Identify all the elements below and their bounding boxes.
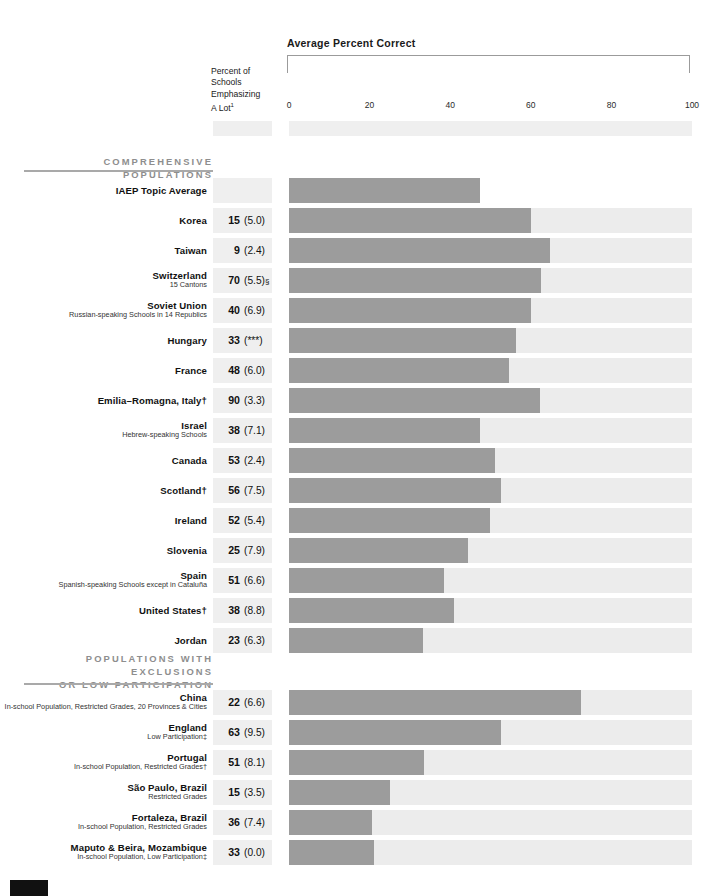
row-bar-track: [289, 268, 692, 293]
x-axis-tick: 0: [287, 100, 292, 110]
row-standard-error: (9.5): [240, 720, 265, 745]
chart-row[interactable]: Fortaleza, BrazilIn-school Population, R…: [0, 810, 715, 840]
row-percent-cell: 15(3.5): [213, 780, 272, 805]
chart-row[interactable]: France48(6.0): [0, 358, 715, 388]
row-bar-track: [289, 478, 692, 503]
chart-row[interactable]: Ireland52(5.4): [0, 508, 715, 538]
row-label: Canada: [0, 455, 207, 466]
chart-row[interactable]: Scotland†56(7.5): [0, 478, 715, 508]
row-label-name: Korea: [0, 215, 207, 226]
row-bar: [289, 208, 531, 233]
row-bar: [289, 750, 424, 775]
row-percent-cell: [213, 178, 272, 203]
row-bar-track: [289, 298, 692, 323]
chart-row[interactable]: Soviet UnionRussian-speaking Schools in …: [0, 298, 715, 328]
row-label-name: Hungary: [0, 335, 207, 346]
row-percent-cell: 36(7.4): [213, 810, 272, 835]
section-rule: [24, 683, 213, 685]
axis-bracket: [287, 55, 690, 73]
row-percent-value: 53: [215, 448, 240, 473]
chart-row[interactable]: Taiwan9(2.4): [0, 238, 715, 268]
section-title: POPULATIONS WITH EXCLUSIONSOR LOW PARTIC…: [20, 652, 213, 691]
section-title-line: COMPREHENSIVE POPULATIONS: [103, 156, 213, 180]
row-label: São Paulo, BrazilRestricted Grades: [0, 782, 207, 802]
row-label: Ireland: [0, 515, 207, 526]
row-standard-error: (5.0): [240, 208, 265, 233]
row-percent-value: 51: [215, 750, 240, 775]
row-percent-value: 36: [215, 810, 240, 835]
row-label: Hungary: [0, 335, 207, 346]
x-axis-tick: 80: [607, 100, 616, 110]
row-label: Korea: [0, 215, 207, 226]
x-axis-tick: 60: [526, 100, 535, 110]
chart-row[interactable]: SpainSpanish-speaking Schools except in …: [0, 568, 715, 598]
row-percent-value: 15: [215, 780, 240, 805]
row-label: SpainSpanish-speaking Schools except in …: [0, 570, 207, 590]
chart-row[interactable]: IAEP Topic Average: [0, 178, 715, 208]
row-standard-error: (5.5)§: [240, 268, 269, 294]
row-bar: [289, 298, 531, 323]
x-axis-tick: 40: [445, 100, 454, 110]
chart-row[interactable]: ChinaIn-school Population, Restricted Gr…: [0, 690, 715, 720]
row-bar: [289, 478, 501, 503]
chart-row[interactable]: United States†38(8.8): [0, 598, 715, 628]
chart-row[interactable]: Emilia–Romagna, Italy†90(3.3): [0, 388, 715, 418]
row-percent-value: 33: [215, 328, 240, 353]
row-percent-cell: 9(2.4): [213, 238, 272, 263]
row-label: France: [0, 365, 207, 376]
row-label: PortugalIn-school Population, Restricted…: [0, 752, 207, 772]
x-axis: 020406080100: [213, 100, 703, 114]
row-label: Scotland†: [0, 485, 207, 496]
row-label-name: Jordan: [0, 635, 207, 646]
row-standard-error: (3.5): [240, 780, 265, 805]
row-standard-error: (2.4): [240, 448, 265, 473]
chart-row[interactable]: Switzerland15 Cantons70(5.5)§: [0, 268, 715, 298]
row-label: IAEP Topic Average: [0, 185, 207, 196]
row-label-name: Slovenia: [0, 545, 207, 556]
row-standard-error: (3.3): [240, 388, 265, 413]
row-bar-track: [289, 628, 692, 653]
row-bar-track: [289, 358, 692, 383]
row-bar-track: [289, 208, 692, 233]
x-axis-tick: 100: [685, 100, 699, 110]
row-percent-cell: 53(2.4): [213, 448, 272, 473]
chart-row[interactable]: Hungary33(***): [0, 328, 715, 358]
row-bar: [289, 178, 480, 203]
row-bar-track: [289, 690, 692, 715]
row-label-sub: Low Participation‡: [0, 733, 207, 742]
row-percent-value: 38: [215, 598, 240, 623]
row-bar: [289, 780, 390, 805]
row-standard-error: (7.1): [240, 418, 265, 443]
row-standard-error: (6.6): [240, 568, 265, 593]
row-label: ChinaIn-school Population, Restricted Gr…: [0, 692, 207, 712]
row-percent-cell: 38(8.8): [213, 598, 272, 623]
page-corner-mark: [10, 880, 48, 896]
chart-title: Average Percent Correct: [287, 37, 416, 49]
row-bar: [289, 628, 423, 653]
row-label: United States†: [0, 605, 207, 616]
row-label-name: Canada: [0, 455, 207, 466]
row-percent-value: 40: [215, 298, 240, 323]
chart-row[interactable]: Korea15(5.0): [0, 208, 715, 238]
chart-row[interactable]: PortugalIn-school Population, Restricted…: [0, 750, 715, 780]
row-label-sub: In-school Population, Restricted Grades†: [0, 763, 207, 772]
row-label-sub: 15 Cantons: [0, 281, 207, 290]
row-bar-track: [289, 720, 692, 745]
chart-row[interactable]: EnglandLow Participation‡63(9.5): [0, 720, 715, 750]
row-percent-cell: 63(9.5): [213, 720, 272, 745]
chart-row[interactable]: IsraelHebrew-speaking Schools38(7.1): [0, 418, 715, 448]
chart-row[interactable]: Maputo & Beira, MozambiqueIn-school Popu…: [0, 840, 715, 870]
x-axis-tick: 20: [365, 100, 374, 110]
section-rule: [24, 170, 213, 172]
row-bar: [289, 418, 480, 443]
chart-row[interactable]: Slovenia25(7.9): [0, 538, 715, 568]
row-percent-value: 56: [215, 478, 240, 503]
chart-row[interactable]: São Paulo, BrazilRestricted Grades15(3.5…: [0, 780, 715, 810]
row-bar: [289, 568, 444, 593]
row-bar-track: [289, 810, 692, 835]
row-percent-cell: 56(7.5): [213, 478, 272, 503]
row-bar-track: [289, 418, 692, 443]
row-percent-cell: 15(5.0): [213, 208, 272, 233]
chart-row[interactable]: Canada53(2.4): [0, 448, 715, 478]
row-label-sub: Russian-speaking Schools in 14 Republics: [0, 311, 207, 320]
